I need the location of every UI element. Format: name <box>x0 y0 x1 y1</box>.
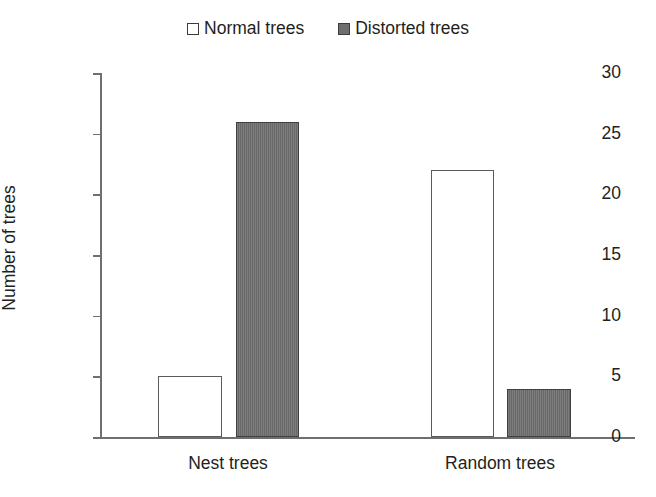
y-tick-15 <box>93 255 100 257</box>
plot-area: 30 25 20 15 10 5 0 <box>100 73 635 437</box>
bar-chart: Normal trees Distorted trees Number of t… <box>0 0 656 497</box>
bar-random-distorted <box>507 389 571 438</box>
legend-label-normal-trees: Normal trees <box>204 20 304 38</box>
bar-nest-normal <box>158 376 222 437</box>
y-tick-label-25: 25 <box>602 125 621 143</box>
y-tick-label-5: 5 <box>611 368 621 386</box>
legend-label-distorted-trees: Distorted trees <box>355 20 469 38</box>
bar-random-normal <box>431 170 494 437</box>
y-tick-label-20: 20 <box>602 186 621 204</box>
legend-swatch-open-square-icon <box>187 23 199 35</box>
y-tick-label-30: 30 <box>602 64 621 82</box>
x-axis-category-random-trees: Random trees <box>445 455 555 473</box>
chart-legend: Normal trees Distorted trees <box>0 20 656 38</box>
y-tick-5 <box>93 376 100 378</box>
y-axis-title: Number of trees <box>1 185 19 310</box>
y-tick-25 <box>93 134 100 136</box>
y-tick-20 <box>93 194 100 196</box>
legend-swatch-filled-square-icon <box>338 23 350 35</box>
legend-item-normal-trees: Normal trees <box>187 20 304 38</box>
y-tick-10 <box>93 316 100 318</box>
x-axis-line <box>100 437 635 439</box>
x-axis-category-nest-trees: Nest trees <box>188 455 268 473</box>
y-axis-line <box>100 73 102 437</box>
bar-nest-distorted <box>236 122 299 438</box>
legend-item-distorted-trees: Distorted trees <box>338 20 469 38</box>
y-tick-label-0: 0 <box>611 428 621 446</box>
y-tick-label-15: 15 <box>602 246 621 264</box>
y-tick-30 <box>93 73 100 75</box>
y-tick-0 <box>93 437 100 439</box>
y-tick-label-10: 10 <box>602 307 621 325</box>
